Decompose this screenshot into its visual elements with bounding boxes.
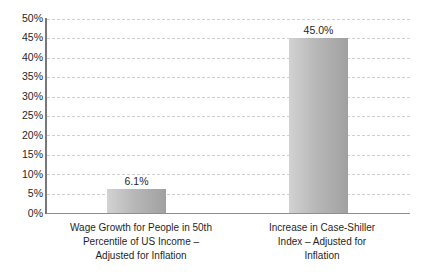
gridline-50 [47,19,410,20]
y-tick-label: 40% [1,52,43,63]
y-axis-tick-labels: 50% 45% 40% 35% 30% 25% 20% 15% 10% 5% 0… [0,0,43,275]
bar-value-label-case-shiller: 45.0% [304,24,334,36]
x-axis-line [47,213,410,214]
gridline-25 [47,116,410,117]
y-tick-label: 20% [1,130,43,141]
gridline-40 [47,58,410,59]
y-tick-label: 45% [1,32,43,43]
category-label-line: Adjusted for Inflation [52,249,230,263]
gridline-30 [47,97,410,98]
category-label-line: Increase in Case-Shiller [233,221,411,235]
category-label-wage-growth: Wage Growth for People in 50th Percentil… [52,221,230,263]
gridline-5 [47,194,410,195]
bar-wage-growth[interactable] [107,189,166,213]
bar-group-wage-growth: 6.1% [107,19,166,213]
bar-value-label-wage-growth: 6.1% [125,175,149,187]
y-tick-label: 5% [1,188,43,199]
gridline-10 [47,174,410,175]
plot-area: 6.1% 45.0% [47,19,410,213]
gridline-15 [47,155,410,156]
y-tick-label: 25% [1,110,43,121]
category-label-line: Inflation [233,249,411,263]
gridline-20 [47,135,410,136]
category-label-line: Index – Adjusted for [233,235,411,249]
gridline-35 [47,77,410,78]
y-tick-label: 15% [1,149,43,160]
category-label-line: Wage Growth for People in 50th [52,221,230,235]
category-label-line: Percentile of US Income – [52,235,230,249]
y-tick-label: 50% [1,13,43,24]
y-tick-label: 35% [1,71,43,82]
gridline-45 [47,38,410,39]
bar-chart: 50% 45% 40% 35% 30% 25% 20% 15% 10% 5% 0… [0,0,424,275]
y-tick-label: 30% [1,91,43,102]
category-label-case-shiller: Increase in Case-Shiller Index – Adjuste… [233,221,411,263]
y-tick-label: 10% [1,169,43,180]
bar-case-shiller[interactable] [289,38,348,213]
bar-group-case-shiller: 45.0% [289,19,348,213]
y-tick-label: 0% [1,208,43,219]
